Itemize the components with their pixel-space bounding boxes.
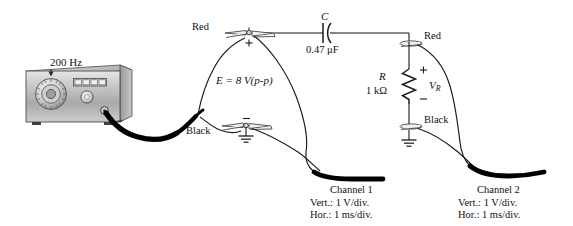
channel2-name-label: Channel 2	[477, 184, 520, 195]
function-generator-icon	[26, 65, 132, 125]
resistor-designator-label: R	[379, 70, 386, 82]
vr-polarity-markers	[420, 67, 427, 100]
source-plus-marker	[246, 40, 253, 47]
ch1-cable	[314, 172, 383, 179]
circuit-diagram: 200 Hz Red Black E = 8 V(p-p) C 0.47 μF …	[0, 0, 573, 226]
red-terminal-right-icon	[400, 41, 422, 48]
vr-symbol: V	[429, 79, 436, 91]
channel1-name-label: Channel 1	[330, 184, 373, 195]
ch2-cable	[470, 166, 544, 176]
black-terminal-right-label: Black	[424, 114, 449, 125]
black-terminal-left-icon	[222, 123, 272, 130]
channel1-hor-label: Hor.: 1 ms/div.	[310, 209, 372, 220]
ch2-probe-tip-lead	[418, 45, 470, 166]
red-terminal-left-icon	[225, 28, 275, 38]
black-terminal-left-label: Black	[186, 125, 211, 136]
ground-icon-right	[402, 140, 417, 146]
red-terminal-right-label: Red	[424, 30, 441, 41]
channel2-hor-label: Hor.: 1 ms/div.	[458, 209, 520, 220]
generator-frequency-label: 200 Hz	[50, 56, 82, 68]
capacitor-designator-label: C	[321, 10, 328, 22]
resistor-icon	[403, 69, 416, 104]
channel2-vert-label: Vert.: 1 V/div.	[458, 197, 517, 208]
capacitor-icon	[320, 23, 336, 43]
vr-subscript: R	[436, 84, 441, 93]
ch1-probe-ground-lead	[252, 129, 320, 172]
capacitor-value-label: 0.47 μF	[306, 44, 338, 55]
red-terminal-left-label: Red	[192, 21, 209, 32]
source-emf-label: E = 8 V(p-p)	[216, 74, 273, 86]
channel1-vert-label: Vert.: 1 V/div.	[310, 197, 369, 208]
ch1-probe-tip-lead	[254, 36, 314, 172]
resistor-value-label: 1 kΩ	[366, 85, 387, 96]
resistor-voltage-label: VR	[429, 79, 441, 93]
